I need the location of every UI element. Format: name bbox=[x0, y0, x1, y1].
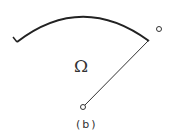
region-label: Ω bbox=[74, 57, 88, 75]
diagram-figure: Ω (b) bbox=[0, 0, 169, 137]
boundary-arc bbox=[17, 17, 149, 42]
radial-line bbox=[84, 40, 149, 106]
arc-end-tick bbox=[13, 37, 17, 42]
figure-caption: (b) bbox=[76, 119, 98, 131]
outer-point-icon bbox=[157, 27, 162, 32]
center-point-icon bbox=[81, 105, 86, 110]
